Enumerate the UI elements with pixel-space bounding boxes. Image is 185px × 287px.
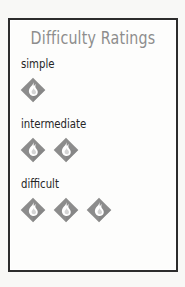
flame-diamond-icon <box>20 77 46 103</box>
flame-diamond-icon <box>86 197 112 223</box>
rating-icon-row <box>20 77 166 103</box>
rating-group-intermediate: intermediate <box>20 117 166 163</box>
rating-label: simple <box>21 57 157 72</box>
rating-label: difficult <box>21 177 157 192</box>
flame-diamond-icon <box>53 197 79 223</box>
rating-icon-row <box>20 137 166 163</box>
difficulty-ratings-card: Difficulty Ratings simple intermediate d… <box>8 18 178 272</box>
flame-diamond-icon <box>53 137 79 163</box>
flame-diamond-icon <box>20 197 46 223</box>
rating-icon-row <box>20 197 166 223</box>
card-content: Difficulty Ratings simple intermediate d… <box>10 20 176 270</box>
rating-legend-list: simple intermediate difficult <box>20 57 166 223</box>
rating-group-simple: simple <box>20 57 166 103</box>
rating-group-difficult: difficult <box>20 177 166 223</box>
rating-label: intermediate <box>21 117 157 132</box>
page-title: Difficulty Ratings <box>25 28 161 48</box>
flame-diamond-icon <box>20 137 46 163</box>
